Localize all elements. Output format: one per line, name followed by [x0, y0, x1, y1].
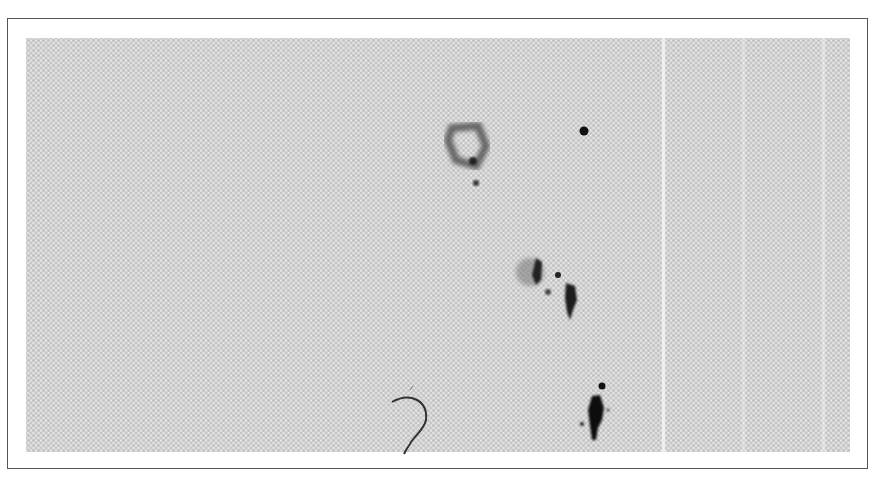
speck-under-ring: [473, 180, 479, 186]
feature-layer: [0, 0, 879, 481]
ring-dark-spot: [469, 157, 477, 165]
bottom-blob: [580, 395, 610, 440]
small-dot-top: [580, 127, 589, 136]
fiber-speck: [410, 386, 413, 390]
ring-blob: [448, 126, 486, 166]
vertical-blob: [565, 283, 577, 320]
bottom-dot: [599, 383, 606, 390]
curved-fiber: [392, 398, 426, 454]
cluster-blob: [516, 258, 561, 295]
